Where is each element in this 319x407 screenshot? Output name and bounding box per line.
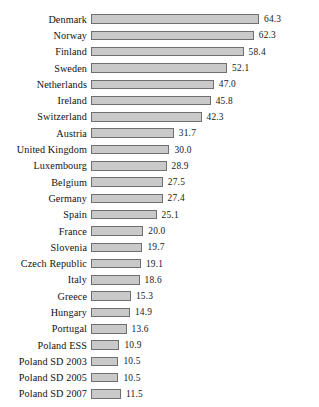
bar-plot-area: 31.7: [87, 125, 319, 141]
bar-value-label: 62.3: [259, 30, 276, 40]
bar-rows-container: Denmark64.3Norway62.3Finland58.4Sweden52…: [0, 11, 319, 402]
bar: [91, 96, 211, 106]
bar-row: Finland58.4: [0, 44, 319, 60]
bar-plot-area: 58.4: [87, 44, 319, 60]
bar-row: France20.0: [0, 223, 319, 239]
bar-row: Italy18.6: [0, 272, 319, 288]
bar-row: Luxembourg28.9: [0, 158, 319, 174]
bar-value-label: 14.9: [135, 307, 152, 317]
bar-category-label: United Kingdom: [0, 144, 87, 155]
bar-row: Poland SD 200711.5: [0, 386, 319, 402]
bar-value-label: 19.7: [147, 242, 164, 252]
bar-category-label: Slovenia: [0, 242, 87, 253]
bar-value-label: 10.9: [124, 340, 141, 350]
bar-plot-area: 10.9: [87, 337, 319, 353]
bar-row: Netherlands47.0: [0, 76, 319, 92]
bar-plot-area: 52.1: [87, 60, 319, 76]
bar-plot-area: 27.4: [87, 190, 319, 206]
bar-value-label: 10.5: [123, 373, 140, 383]
bar-plot-area: 11.5: [87, 386, 319, 402]
bar: [91, 161, 167, 171]
bar-value-label: 25.1: [162, 210, 179, 220]
bar: [91, 194, 163, 204]
bar: [91, 14, 259, 24]
bar-plot-area: 30.0: [87, 141, 319, 157]
bar-row: Denmark64.3: [0, 11, 319, 27]
bar: [91, 177, 163, 187]
bar-category-label: Norway: [0, 30, 87, 41]
bar-value-label: 11.5: [126, 389, 143, 399]
bar-plot-area: 19.1: [87, 255, 319, 271]
bar-value-label: 19.1: [146, 259, 163, 269]
bar-category-label: Germany: [0, 193, 87, 204]
bar: [91, 47, 244, 57]
bar: [91, 340, 119, 350]
bar-row: Greece15.3: [0, 288, 319, 304]
bar-category-label: Poland ESS: [0, 340, 87, 351]
bar-row: Sweden52.1: [0, 60, 319, 76]
bar: [91, 243, 142, 253]
bar: [91, 275, 140, 285]
bar-value-label: 52.1: [232, 63, 249, 73]
bar-row: Austria31.7: [0, 125, 319, 141]
bar: [91, 308, 130, 318]
bar: [91, 31, 254, 41]
bar-value-label: 27.4: [168, 193, 185, 203]
bar-category-label: Hungary: [0, 307, 87, 318]
bar-category-label: Poland SD 2005: [0, 372, 87, 383]
bar: [91, 357, 118, 367]
bar: [91, 389, 121, 399]
bar-plot-area: 64.3: [87, 11, 319, 27]
bar-category-label: Poland SD 2003: [0, 356, 87, 367]
bar-plot-area: 10.5: [87, 353, 319, 369]
bar-row: Switzerland42.3: [0, 109, 319, 125]
bar-value-label: 18.6: [145, 275, 162, 285]
bar: [91, 324, 127, 334]
bar-category-label: Luxembourg: [0, 160, 87, 171]
bar-category-label: Spain: [0, 209, 87, 220]
bar: [91, 128, 174, 138]
bar: [91, 291, 131, 301]
bar-category-label: Austria: [0, 128, 87, 139]
bar-category-label: Sweden: [0, 63, 87, 74]
bar-row: Poland SD 200510.5: [0, 370, 319, 386]
bar-row: Poland ESS10.9: [0, 337, 319, 353]
bar-plot-area: 20.0: [87, 223, 319, 239]
bar-value-label: 10.5: [123, 356, 140, 366]
bar-row: Slovenia19.7: [0, 239, 319, 255]
bar-plot-area: 47.0: [87, 76, 319, 92]
bar-plot-area: 19.7: [87, 239, 319, 255]
bar-row: Czech Republic19.1: [0, 255, 319, 271]
bar-row: Portugal13.6: [0, 321, 319, 337]
bar-row: Poland SD 200310.5: [0, 353, 319, 369]
bar-plot-area: 15.3: [87, 288, 319, 304]
bar-plot-area: 45.8: [87, 92, 319, 108]
bar-value-label: 30.0: [174, 145, 191, 155]
bar: [91, 112, 202, 122]
bar-value-label: 31.7: [179, 128, 196, 138]
bar: [91, 210, 157, 220]
bar-plot-area: 25.1: [87, 207, 319, 223]
bar-category-label: Portugal: [0, 323, 87, 334]
bar-plot-area: 18.6: [87, 272, 319, 288]
bar-plot-area: 28.9: [87, 158, 319, 174]
bar-value-label: 28.9: [172, 161, 189, 171]
bar-category-label: Czech Republic: [0, 258, 87, 269]
bar: [91, 80, 214, 90]
bar-category-label: Netherlands: [0, 79, 87, 90]
bar-row: Belgium27.5: [0, 174, 319, 190]
bar-value-label: 15.3: [136, 291, 153, 301]
bar: [91, 63, 227, 73]
bar-plot-area: 42.3: [87, 109, 319, 125]
bar-value-label: 27.5: [168, 177, 185, 187]
bar-value-label: 42.3: [207, 112, 224, 122]
bar-value-label: 58.4: [249, 47, 266, 57]
bar-plot-area: 13.6: [87, 321, 319, 337]
bar-value-label: 20.0: [148, 226, 165, 236]
bar-row: Norway62.3: [0, 27, 319, 43]
bar: [91, 259, 141, 269]
bar-row: Spain25.1: [0, 207, 319, 223]
bar-plot-area: 14.9: [87, 304, 319, 320]
bar-category-label: Denmark: [0, 14, 87, 25]
bar-category-label: France: [0, 226, 87, 237]
